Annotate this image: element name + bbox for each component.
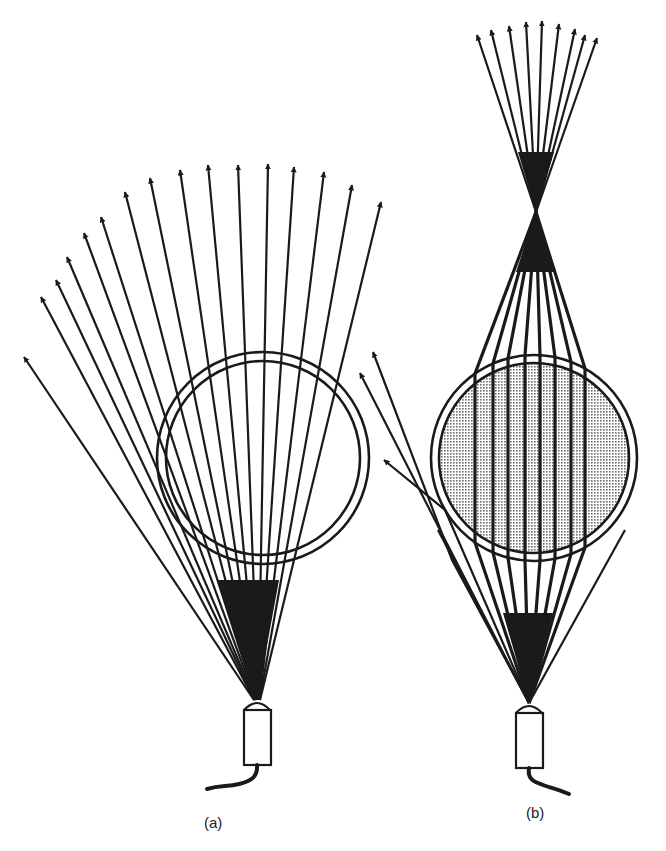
light-source-body — [516, 713, 543, 768]
light-ray — [101, 217, 256, 700]
panel-b-filled-sphere-lens — [360, 21, 637, 794]
light-ray — [41, 297, 254, 700]
light-ray — [84, 233, 256, 700]
optics-diagram — [0, 0, 666, 851]
light-ray — [24, 357, 254, 700]
light-ray — [125, 192, 256, 700]
source-cable — [529, 768, 569, 794]
light-ray — [180, 170, 257, 700]
panel-b-label: (b) — [526, 804, 544, 821]
panel-a-empty-sphere — [24, 164, 381, 789]
light-ray — [260, 202, 381, 700]
light-ray — [67, 257, 255, 700]
light-source-body — [244, 710, 271, 765]
light-ray — [259, 172, 324, 700]
panel-a-label: (a) — [204, 814, 222, 831]
focused-ray — [536, 35, 585, 212]
light-ray — [260, 185, 352, 700]
source-cable — [207, 765, 257, 789]
